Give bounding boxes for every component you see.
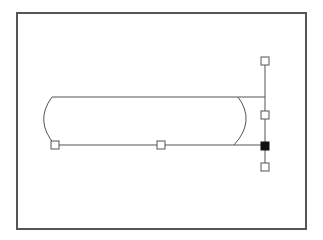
handle-bottom[interactable]	[261, 163, 269, 171]
diagram-frame	[17, 13, 306, 229]
handle-anchor-selected[interactable]	[261, 142, 269, 150]
handle-middle-right[interactable]	[261, 111, 269, 119]
handle-bottom-middle[interactable]	[157, 141, 165, 149]
diagram-svg	[0, 0, 323, 240]
handle-top[interactable]	[261, 57, 269, 65]
diagram-canvas	[0, 0, 323, 240]
handle-bottom-left[interactable]	[51, 141, 59, 149]
